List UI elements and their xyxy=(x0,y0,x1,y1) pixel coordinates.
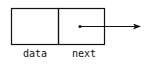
data-field-label: data xyxy=(23,48,47,60)
data-field-box xyxy=(12,9,59,45)
next-field-label: next xyxy=(72,48,96,60)
